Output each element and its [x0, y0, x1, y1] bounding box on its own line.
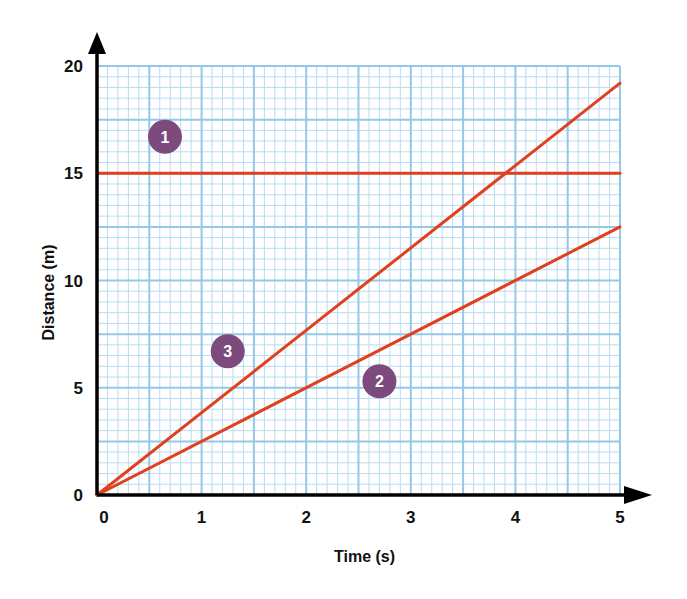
series-marker-label-3: 3 — [223, 343, 232, 360]
series-marker-label-2: 2 — [375, 373, 384, 390]
y-tick-label: 5 — [74, 379, 83, 398]
y-axis-arrow-icon — [88, 32, 106, 54]
x-axis-title: Time (s) — [334, 548, 395, 565]
x-tick-label: 0 — [99, 508, 108, 527]
y-tick-label: 15 — [64, 164, 83, 183]
x-tick-label: 5 — [615, 508, 624, 527]
series-marker-label-1: 1 — [161, 129, 170, 146]
y-tick-label: 0 — [74, 486, 83, 505]
y-tick-label: 10 — [64, 272, 83, 291]
x-tick-label: 1 — [197, 508, 206, 527]
x-tick-label: 4 — [511, 508, 521, 527]
y-tick-label: 20 — [64, 57, 83, 76]
distance-time-chart: 01234505101520Time (s)Distance (m)123 — [0, 0, 687, 599]
x-tick-label: 2 — [301, 508, 310, 527]
x-tick-label: 3 — [406, 508, 415, 527]
x-axis-arrow-icon — [624, 486, 652, 504]
y-axis-title: Distance (m) — [40, 244, 57, 340]
